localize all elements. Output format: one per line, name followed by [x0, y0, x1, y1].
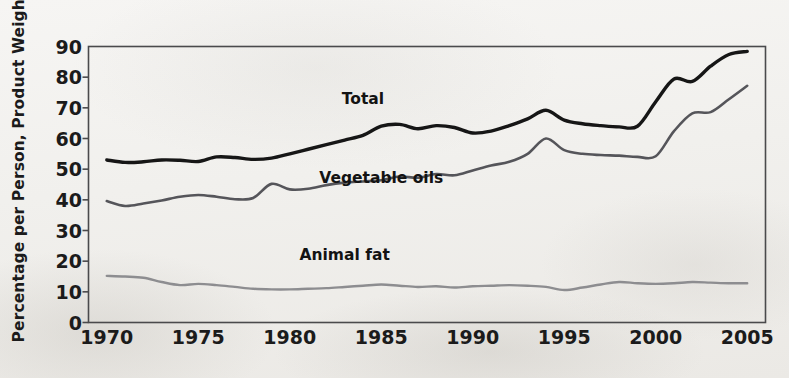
x-tick-label-2000: 2000	[621, 326, 691, 348]
x-tick-label-1975: 1975	[163, 326, 233, 348]
plot-area	[0, 0, 789, 378]
series-line-total	[107, 51, 747, 162]
x-tick-label-1970: 1970	[72, 326, 142, 348]
series-label-animal-fat: Animal fat	[300, 246, 390, 264]
x-tick-label-1985: 1985	[346, 326, 416, 348]
y-tick-marks	[83, 77, 89, 322]
x-tick-label-1990: 1990	[438, 326, 508, 348]
x-tick-label-1980: 1980	[255, 326, 325, 348]
series-line-vegetable-oils	[107, 86, 747, 206]
chart-screenshot: Percentage per Person, Product Weight 01…	[0, 0, 789, 378]
x-tick-label-1995: 1995	[529, 326, 599, 348]
series-label-total: Total	[342, 90, 384, 108]
x-tick-label-2005: 2005	[712, 326, 782, 348]
series-label-vegetable-oils: Vegetable oils	[319, 169, 443, 187]
series-line-animal-fat	[107, 276, 747, 290]
